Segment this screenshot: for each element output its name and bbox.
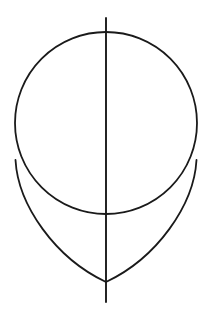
egg-construction-figure <box>0 0 211 319</box>
left-taper-curve <box>16 160 107 282</box>
drawing-canvas <box>0 0 211 319</box>
right-taper-curve <box>106 160 197 282</box>
